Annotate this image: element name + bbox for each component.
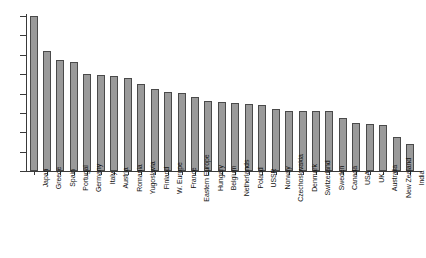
y-tick-mark <box>20 94 27 95</box>
bar-slot <box>256 0 269 172</box>
x-label-slot: Germany <box>81 176 94 256</box>
x-label-slot: Netherlands <box>229 176 242 256</box>
bar-slot <box>296 0 309 172</box>
x-label-slot: Japan <box>27 176 40 256</box>
bar-slot <box>242 0 255 172</box>
x-label-slot: UK <box>363 176 376 256</box>
x-label-slot: Switzerland <box>309 176 322 256</box>
y-tick-7: 7 <box>0 35 27 36</box>
y-tick-mark <box>20 171 27 172</box>
x-label-slot: Spain <box>54 176 67 256</box>
x-label-slot: Eastern Europe <box>188 176 201 256</box>
y-tick-mark <box>20 35 27 36</box>
y-tick-8: 8 <box>0 16 27 17</box>
bar-slot <box>336 0 349 172</box>
x-label-slot: Sweden <box>323 176 336 256</box>
y-tick-3: 3 <box>0 113 27 114</box>
bar <box>97 75 105 171</box>
bar <box>258 105 266 171</box>
bar <box>352 123 360 171</box>
bar-slot <box>269 0 282 172</box>
bar-chart: 012345678 JapanGreeceSpainPortugalGerman… <box>0 0 426 258</box>
bar-slot <box>162 0 175 172</box>
x-label-slot: Italy <box>94 176 107 256</box>
x-label-slot: Canada <box>336 176 349 256</box>
bar-slot <box>121 0 134 172</box>
bar-slot <box>404 0 417 172</box>
bar <box>137 84 145 171</box>
x-label-slot: Belgium <box>215 176 228 256</box>
y-tick-mark <box>20 132 27 133</box>
bar <box>70 62 78 171</box>
bar-slot <box>309 0 322 172</box>
x-label-slot: Yugoslavia <box>135 176 148 256</box>
bar <box>339 118 347 171</box>
bar-slot <box>390 0 403 172</box>
bar <box>151 89 159 171</box>
bar-slot <box>175 0 188 172</box>
x-label-slot: New Zealand <box>390 176 403 256</box>
y-tick-5: 5 <box>0 74 27 75</box>
y-tick-mark <box>20 74 27 75</box>
x-label-slot: Denmark <box>296 176 309 256</box>
bar-slot <box>108 0 121 172</box>
bar <box>110 76 118 171</box>
bar-slot <box>363 0 376 172</box>
y-tick-6: 6 <box>0 55 27 56</box>
bar-slot <box>148 0 161 172</box>
x-label-slot: Norway <box>269 176 282 256</box>
y-tick-2: 2 <box>0 132 27 133</box>
bar-slot <box>40 0 53 172</box>
y-tick-0: 0 <box>0 171 27 172</box>
y-tick-mark <box>20 16 27 17</box>
y-tick-4: 4 <box>0 94 27 95</box>
y-tick-mark <box>20 113 27 114</box>
x-label-slot: W. Europe <box>162 176 175 256</box>
bar-slot <box>323 0 336 172</box>
y-tick-mark <box>20 152 27 153</box>
x-label-slot: India <box>404 176 417 256</box>
x-label-slot: France <box>175 176 188 256</box>
x-label-slot: USSR <box>256 176 269 256</box>
bar-slot <box>202 0 215 172</box>
x-label-slot: Finland <box>148 176 161 256</box>
x-label-slot: Poland <box>242 176 255 256</box>
bar-slot <box>27 0 40 172</box>
bar <box>43 51 51 171</box>
bar <box>178 93 186 171</box>
x-label-slot: Hungary <box>202 176 215 256</box>
bar <box>124 78 132 171</box>
bar-slot <box>135 0 148 172</box>
x-axis-tick-label: India <box>410 169 418 184</box>
bars-group <box>27 0 422 172</box>
x-label-slot: USA <box>350 176 363 256</box>
x-label-slot: Australia <box>377 176 390 256</box>
bar-slot <box>94 0 107 172</box>
bar <box>218 102 226 171</box>
bar <box>164 92 172 171</box>
x-label-slot: Czechoslovakia <box>283 176 296 256</box>
bar-slot <box>54 0 67 172</box>
x-label-slot: Romania <box>121 176 134 256</box>
x-axis-labels: JapanGreeceSpainPortugalGermanyItalyAust… <box>27 176 422 256</box>
bar <box>83 74 91 171</box>
y-tick-1: 1 <box>0 152 27 153</box>
x-label-slot: Portugal <box>67 176 80 256</box>
bar-slot <box>67 0 80 172</box>
bar <box>366 124 374 171</box>
x-label-slot: Austria <box>108 176 121 256</box>
bar-slot <box>215 0 228 172</box>
bar-slot <box>229 0 242 172</box>
bar <box>56 60 64 171</box>
bar-slot <box>377 0 390 172</box>
bar-slot <box>283 0 296 172</box>
bar-slot <box>188 0 201 172</box>
x-label-slot: Greece <box>40 176 53 256</box>
bar <box>272 109 280 171</box>
bar-slot <box>81 0 94 172</box>
bar <box>30 16 38 171</box>
y-tick-mark <box>20 55 27 56</box>
bar-slot <box>350 0 363 172</box>
